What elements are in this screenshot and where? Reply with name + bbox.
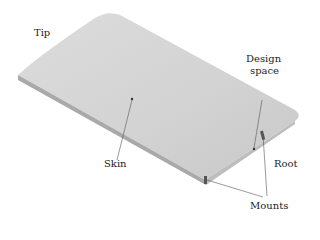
mount-left: [204, 176, 207, 184]
skin-point: [131, 98, 133, 100]
label-root: Root: [274, 158, 298, 169]
design-space-point: [253, 148, 255, 150]
label-mounts: Mounts: [250, 200, 288, 211]
label-tip: Tip: [34, 27, 50, 38]
label-design-space-2: space: [250, 65, 279, 76]
label-design-space-1: Design: [246, 53, 281, 64]
label-skin: Skin: [104, 158, 127, 169]
